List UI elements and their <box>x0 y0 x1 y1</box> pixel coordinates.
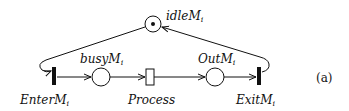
label-enter: EnterMi <box>19 93 69 108</box>
place-idle <box>145 16 161 32</box>
token-dot <box>151 22 155 26</box>
transition-exit <box>257 67 261 85</box>
place-out <box>206 68 224 86</box>
label-process: Process <box>127 93 175 107</box>
label-out: OutMi <box>198 52 236 67</box>
figure-caption: (a) <box>316 71 333 85</box>
transition-process <box>146 69 154 85</box>
label-exit: ExitMi <box>235 93 275 108</box>
petri-net-diagram: idleMi busyMi OutMi EnterMi Process Exit… <box>0 0 349 111</box>
label-idle: idleMi <box>166 9 204 24</box>
label-busy: busyMi <box>80 52 124 67</box>
place-busy <box>92 68 110 86</box>
transition-enter <box>52 67 56 85</box>
